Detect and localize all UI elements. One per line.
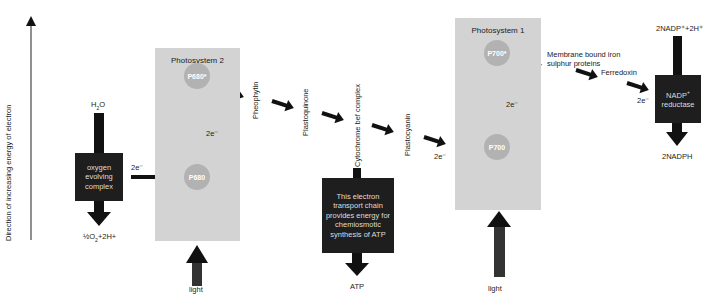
ferredoxin-label: Ferredoxin	[601, 69, 637, 77]
fes-proteins-label: Membrane bound iron sulphur proteins	[547, 50, 637, 68]
ps2-electron-label: 2e⁻	[206, 130, 218, 138]
ps1-electron-label: 2e⁻	[506, 101, 518, 109]
energy-axis-label: Direction of increasing energy of electr…	[5, 105, 13, 241]
nadph-output-arrow	[666, 122, 688, 146]
ps1-light-arrow	[487, 211, 511, 277]
carrier-plastocyanin: Plastocyanin	[404, 113, 412, 156]
cytochrome-to-plastocyanin-arrow	[370, 119, 396, 138]
carrier-plastoquinone: Plastoquinone	[302, 88, 310, 136]
carrier-pheophytin: Pheophytin	[252, 81, 260, 119]
plastocyanin-to-ps1-arrow	[422, 131, 448, 150]
p700-ground: P700	[484, 134, 510, 160]
ps1-light-label: light	[488, 285, 502, 293]
water-label: H2O	[91, 101, 105, 111]
nadp-input-arrow	[673, 36, 682, 76]
p680-excited: P680*	[184, 63, 210, 89]
atp-output-label: ATP	[350, 283, 364, 291]
oxygen-evolving-complex: oxygen evolving complex	[75, 153, 123, 201]
energy-axis-arrow	[26, 16, 36, 240]
to-nadp-electron-label: 2e⁻	[637, 97, 649, 105]
photosystem1-title: Photosystem 1	[455, 26, 541, 35]
nadp-reductase-tail: reductase	[662, 100, 695, 109]
plastoquinone-to-cytochrome-arrow	[320, 107, 346, 126]
p700-excited: P700*	[484, 40, 510, 66]
water-input-arrow	[94, 113, 104, 155]
to-ps1-electron-label: 2e⁻	[434, 153, 446, 161]
nadp-reductase-sup: +	[687, 89, 690, 95]
cytochrome-to-atp-box-connector	[353, 168, 361, 178]
oxygen-output-arrow	[87, 200, 111, 226]
ps2-light-arrow	[186, 245, 208, 286]
nadp-reductase-label: NADP	[666, 90, 687, 99]
atp-output-arrow	[345, 252, 369, 276]
oec-electron-label: 2e⁻	[131, 164, 143, 172]
nadp-reductase-box: NADP+ reductase	[655, 75, 701, 123]
p680-ground: P680	[184, 164, 210, 190]
oxygen-output-label: ½O2+2H+	[83, 233, 116, 243]
ferredoxin-to-reductase-arrow	[625, 77, 651, 96]
ps2-light-label: light	[189, 286, 203, 294]
pheophytin-to-plastoquinone-arrow	[270, 95, 296, 114]
nadph-output-label: 2NADPH	[662, 153, 692, 161]
atp-synthesis-box: This electron transport chain provides e…	[322, 178, 394, 253]
nadp-input-label: 2NADP⁺+2H⁺	[656, 25, 703, 33]
carrier-cytochrome-bef-complex: Cytochrome bef complex	[354, 84, 362, 167]
